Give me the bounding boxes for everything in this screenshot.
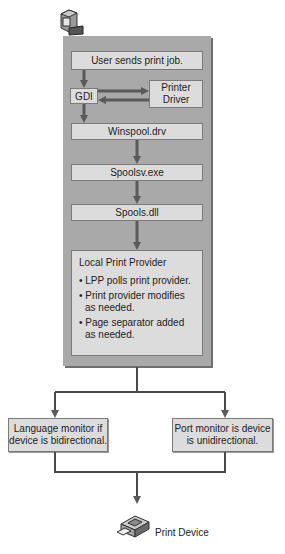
print-device-icon — [117, 510, 153, 540]
connector-arrows — [0, 0, 285, 554]
print-device-label: Print Device — [155, 527, 209, 538]
